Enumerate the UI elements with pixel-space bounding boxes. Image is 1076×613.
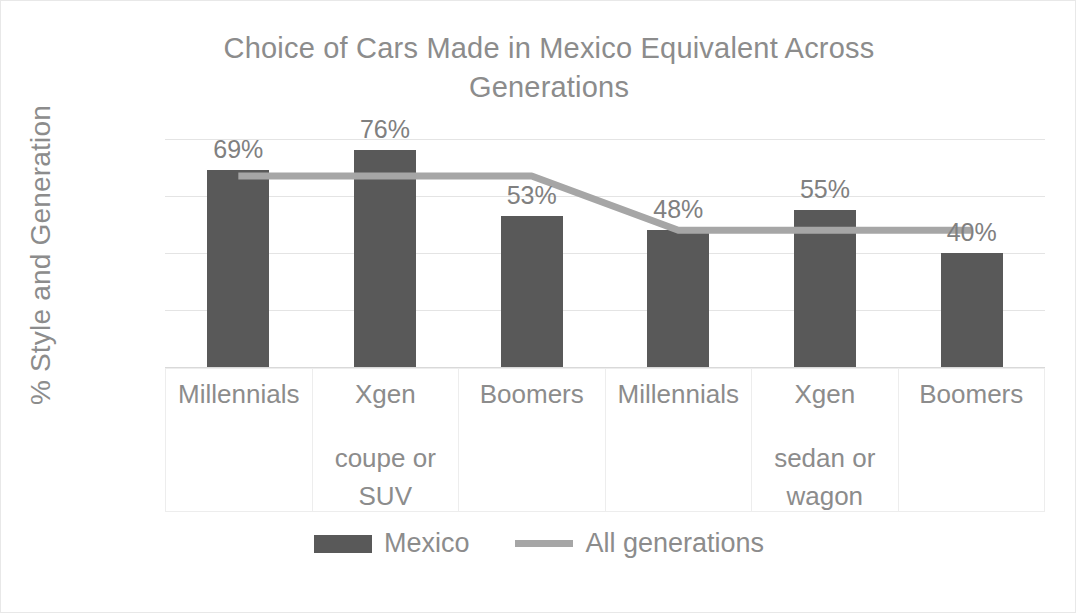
chart-title-line-1: Choice of Cars Made in Mexico Equivalent…	[224, 32, 875, 64]
x-axis-group-label-line-1: sedan or	[738, 439, 912, 477]
legend-label-mexico: Mexico	[384, 528, 470, 559]
x-axis-generation-label: Boomers	[893, 379, 1051, 410]
x-axis-generation-label: Xgen	[307, 379, 465, 410]
legend-item-mexico: Mexico	[314, 528, 470, 559]
bar-data-label: 53%	[467, 181, 597, 210]
bar-data-label: 76%	[320, 115, 450, 144]
legend-bar-swatch-icon	[314, 535, 372, 553]
x-axis-generation-label: Millennials	[160, 379, 318, 410]
chart-title-line-2: Generations	[469, 71, 629, 103]
x-axis-generation-label: Boomers	[453, 379, 611, 410]
x-axis-category-cell: Xgensedan orwagon	[752, 369, 899, 511]
chart-title: Choice of Cars Made in Mexico Equivalent…	[169, 29, 929, 107]
x-axis-category-table: MillennialsXgencoupe orSUVBoomersMillenn…	[165, 368, 1045, 512]
x-axis-category-cell: Millennials	[606, 369, 753, 511]
x-axis-category-cell: Xgencoupe orSUV	[313, 369, 460, 511]
chart-legend: Mexico All generations	[1, 528, 1076, 559]
x-axis-category-cell: Boomers	[459, 369, 606, 511]
x-axis-generation-label: Xgen	[746, 379, 904, 410]
x-axis-group-label-line-1: coupe or	[299, 439, 473, 477]
x-axis-category-cell: Millennials	[166, 369, 313, 511]
x-axis-generation-label: Millennials	[600, 379, 758, 410]
y-axis-title: % Style and Generation	[25, 90, 57, 420]
x-axis-group-label-line-2: wagon	[738, 477, 912, 515]
legend-line-swatch-icon	[515, 540, 573, 547]
bar-data-label: 40%	[907, 218, 1037, 247]
line-series-all-generations	[165, 139, 1045, 367]
bar-data-label: 69%	[173, 135, 303, 164]
chart-container: Choice of Cars Made in Mexico Equivalent…	[0, 0, 1076, 613]
x-axis-group-label-line-2: SUV	[299, 477, 473, 515]
legend-item-all-generations: All generations	[515, 528, 764, 559]
x-axis-group-label: coupe orSUV	[299, 439, 473, 515]
x-axis-group-label: sedan orwagon	[738, 439, 912, 515]
legend-label-all-generations: All generations	[585, 528, 764, 559]
plot-area: 80%60%40%20%0% 69%76%53%48%55%40%	[165, 139, 1045, 367]
bar-data-label: 55%	[760, 175, 890, 204]
bar-data-label: 48%	[613, 195, 743, 224]
x-axis-category-cell: Boomers	[899, 369, 1045, 511]
